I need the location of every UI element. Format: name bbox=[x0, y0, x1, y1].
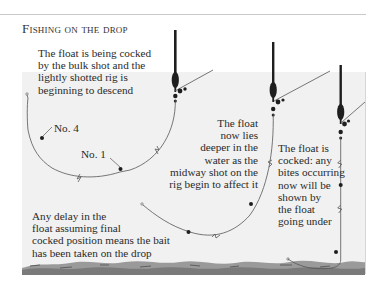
annotation-delay-note: Any delay in the float assuming final co… bbox=[32, 210, 170, 259]
shot-label-no1: No. 1 bbox=[81, 148, 106, 160]
annotation-stage-2: The float now lies deeper in the water a… bbox=[148, 117, 258, 190]
shot-no4 bbox=[40, 136, 44, 140]
shot-label-no4: No. 4 bbox=[54, 122, 79, 134]
annotation-stage-1: The float is being cocked by the bulk sh… bbox=[38, 47, 151, 96]
annotation-stage-3: The float is cocked: any bites occurring… bbox=[278, 142, 345, 227]
shot-no1 bbox=[119, 167, 123, 171]
